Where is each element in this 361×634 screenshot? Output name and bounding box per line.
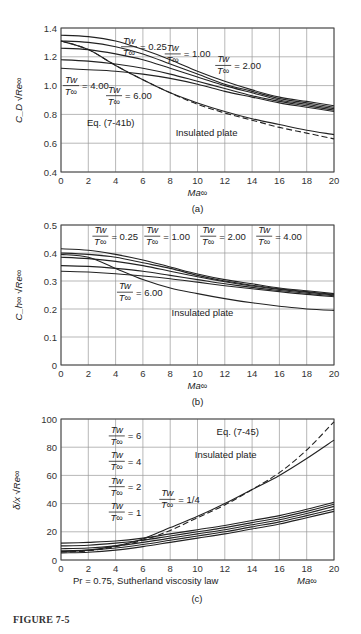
svg-text:Tw: Tw [146,224,159,235]
svg-text:= 2.00: = 2.00 [219,231,246,242]
annotation-label: Insulated plate [195,449,257,460]
svg-text:0.8: 0.8 [44,109,57,120]
svg-text:0.4: 0.4 [44,248,57,259]
svg-text:1.4: 1.4 [44,23,57,34]
temperature-ratio-label: TwT∞= 2.00 [200,224,246,247]
svg-text:18: 18 [301,563,312,574]
svg-text:14: 14 [247,175,258,186]
svg-text:= 4: = 4 [128,456,141,467]
svg-text:8: 8 [168,175,173,186]
annotation-label: Eq. (7-45) [217,426,259,437]
svg-text:12: 12 [220,563,231,574]
svg-text:20: 20 [46,526,57,537]
svg-text:= 1.00: = 1.00 [184,48,211,59]
svg-text:T∞: T∞ [258,236,271,247]
temperature-ratio-label: TwT∞= 1.00 [144,224,190,247]
panel-label: (b) [192,396,204,407]
svg-text:4: 4 [113,563,118,574]
svg-text:8: 8 [168,563,173,574]
svg-text:Tw: Tw [111,500,124,511]
svg-text:Tw: Tw [258,224,271,235]
svg-text:0: 0 [58,368,63,379]
svg-text:20: 20 [329,368,340,379]
figure-label: FIGURE 7-5 [13,614,70,625]
x-axis-label: Ma∞ [188,187,208,198]
panel-label: (a) [192,203,204,214]
svg-text:T∞: T∞ [110,487,123,498]
svg-text:Tw: Tw [123,35,136,46]
x-tick-labels: 02468101214161820 [58,368,339,379]
y-axis-label: δ/x √Re∞ [11,470,22,510]
svg-text:40: 40 [46,498,57,509]
y-axis-label: C_h∞ √Re∞ [13,269,24,320]
svg-text:0: 0 [58,563,63,574]
svg-text:T∞: T∞ [110,512,123,523]
svg-text:0.6: 0.6 [44,138,57,149]
svg-text:0.1: 0.1 [44,332,57,343]
svg-text:20: 20 [329,563,340,574]
svg-text:80: 80 [46,442,57,453]
svg-text:0.5: 0.5 [44,220,57,231]
svg-text:T∞: T∞ [110,436,123,447]
svg-text:= 6: = 6 [128,430,141,441]
svg-text:10: 10 [192,368,203,379]
svg-text:2: 2 [86,368,91,379]
svg-text:Tw: Tw [65,74,78,85]
y-tick-labels: 00.10.20.30.40.5 [44,220,57,371]
svg-text:0: 0 [58,175,63,186]
svg-text:14: 14 [247,563,258,574]
temperature-ratio-label: TwT∞= 4.00 [256,224,302,247]
svg-text:Tw: Tw [94,224,107,235]
x-tick-labels: 02468101214161820 [58,563,339,574]
svg-text:4: 4 [113,368,118,379]
svg-text:= 1/4: = 1/4 [178,494,199,505]
x-tick-labels: 02468101214161820 [58,175,339,186]
svg-text:T∞: T∞ [123,47,136,58]
conditions-note: Pr = 0.75, Sutherland viscosity law [73,575,219,586]
svg-text:1.0: 1.0 [44,80,57,91]
svg-text:0: 0 [52,555,57,566]
svg-text:T∞: T∞ [146,236,159,247]
temperature-ratio-label: TwT∞= 4.00 [63,74,109,97]
svg-text:T∞: T∞ [119,292,132,303]
svg-text:Tw: Tw [217,53,230,64]
svg-text:14: 14 [247,368,258,379]
svg-text:8: 8 [168,368,173,379]
figure-canvas: 024681012141618200.40.60.81.01.21.4Tw/T∞… [0,0,361,634]
svg-text:T∞: T∞ [217,65,230,76]
annotations: TwT∞= 6TwT∞= 4TwT∞= 2TwT∞= 1TwT∞= 1/4Eq.… [109,424,259,523]
chart-panel-a: 024681012141618200.40.60.81.01.21.4Tw/T∞… [13,23,339,215]
chart-panel-c: 02468101214161820020406080100Tw/T∞ = 6Tw… [11,414,339,605]
grid-lines [61,419,334,560]
svg-text:Tw: Tw [202,224,215,235]
svg-text:20: 20 [329,175,340,186]
svg-text:T∞: T∞ [65,86,78,97]
svg-text:2: 2 [86,175,91,186]
svg-text:T∞: T∞ [110,461,123,472]
chart-panel-b: 0246810121416182000.10.20.30.40.5Tw/T∞ =… [13,220,339,408]
svg-text:Tw: Tw [161,487,174,498]
svg-text:16: 16 [274,563,285,574]
temperature-ratio-label: TwT∞= 4 [109,449,141,472]
svg-text:= 4.00: = 4.00 [82,80,109,91]
temperature-ratio-label: TwT∞= 6 [109,424,141,447]
svg-text:10: 10 [192,563,203,574]
temperature-ratio-label: TwT∞= 1/4 [159,487,199,510]
temperature-ratio-label: TwT∞= 6.00 [106,84,152,107]
svg-text:= 0.25: = 0.25 [140,41,167,52]
svg-text:T∞: T∞ [161,499,174,510]
svg-text:= 1.00: = 1.00 [163,231,190,242]
svg-text:12: 12 [220,175,231,186]
svg-text:T∞: T∞ [94,236,107,247]
svg-text:0.4: 0.4 [44,167,57,178]
svg-text:0: 0 [52,360,57,371]
x-axis-label: Ma∞ [297,575,317,586]
svg-text:6: 6 [140,175,145,186]
panel-label: (c) [191,593,202,604]
svg-text:= 2: = 2 [128,481,141,492]
annotation-label: Insulated plate [172,307,234,318]
svg-text:= 2.00: = 2.00 [234,60,261,71]
svg-text:1.2: 1.2 [44,51,57,62]
svg-text:0.3: 0.3 [44,276,57,287]
svg-text:T∞: T∞ [202,236,215,247]
